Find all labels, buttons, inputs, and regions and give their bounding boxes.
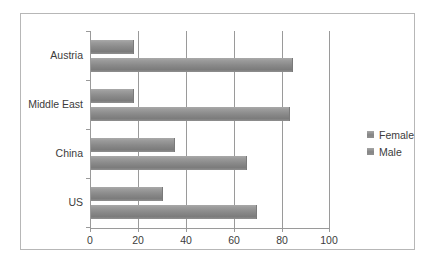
legend-item-male[interactable]: Male (367, 143, 414, 160)
legend-label-male: Male (379, 146, 402, 158)
category-tick-middle-east (86, 129, 90, 130)
bar-china-male[interactable] (91, 156, 247, 170)
category-tick-china (86, 178, 90, 179)
chart-frame: 0 20 40 60 80 100 Austria Middle East Ch… (20, 13, 415, 250)
category-label-us: US (0, 196, 83, 208)
x-tick-20 (138, 228, 139, 232)
bar-austria-female[interactable] (91, 40, 134, 54)
chart-legend: Female Male (367, 126, 414, 160)
bar-middle-east-female[interactable] (91, 89, 134, 103)
plot-area: 0 20 40 60 80 100 Austria Middle East Ch… (90, 31, 330, 228)
bar-austria-male[interactable] (91, 58, 293, 72)
category-tick-austria (86, 80, 90, 81)
legend-label-female: Female (379, 129, 414, 141)
legend-swatch-male-icon (367, 148, 374, 155)
axis-line-bottom (90, 228, 330, 229)
x-tick-label-100: 100 (309, 234, 349, 246)
axis-line-right (329, 31, 330, 228)
bar-us-female[interactable] (91, 187, 163, 201)
x-tick-label-80: 80 (262, 234, 302, 246)
bar-china-female[interactable] (91, 138, 175, 152)
category-label-austria: Austria (0, 49, 83, 61)
x-tick-0 (90, 228, 91, 232)
bar-us-male[interactable] (91, 205, 257, 219)
legend-swatch-female-icon (367, 131, 374, 138)
x-tick-40 (186, 228, 187, 232)
x-tick-80 (282, 228, 283, 232)
x-tick-label-0: 0 (70, 234, 110, 246)
legend-item-female[interactable]: Female (367, 126, 414, 143)
category-tick-top (86, 31, 90, 32)
category-tick-us (86, 227, 90, 228)
x-tick-60 (234, 228, 235, 232)
x-tick-label-20: 20 (118, 234, 158, 246)
x-tick-100 (329, 228, 330, 232)
x-tick-label-40: 40 (166, 234, 206, 246)
category-label-middle-east: Middle East (0, 98, 83, 110)
bar-middle-east-male[interactable] (91, 107, 290, 121)
x-tick-label-60: 60 (214, 234, 254, 246)
category-label-china: China (0, 147, 83, 159)
